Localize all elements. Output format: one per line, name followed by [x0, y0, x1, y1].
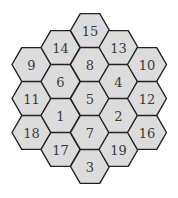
- hex-label: 5: [86, 92, 94, 107]
- hex-label: 16: [139, 126, 156, 141]
- hex-label: 14: [52, 41, 69, 56]
- hex-label: 10: [139, 58, 156, 73]
- hex-label: 4: [114, 75, 122, 90]
- hex-label: 6: [56, 75, 64, 90]
- hex-label: 2: [114, 109, 122, 124]
- hex-label: 9: [27, 58, 35, 73]
- hex-label: 1: [56, 109, 64, 124]
- hex-label: 17: [52, 143, 69, 158]
- hex-label: 15: [82, 24, 99, 39]
- hex-label: 7: [86, 126, 94, 141]
- hex-label: 3: [86, 160, 94, 175]
- hex-grid-diagram: 91118146117158573134219101216: [0, 0, 178, 198]
- hex-label: 19: [110, 143, 127, 158]
- hex-label: 13: [110, 41, 127, 56]
- hex-label: 11: [23, 92, 40, 107]
- hex-label: 18: [23, 126, 40, 141]
- hex-label: 12: [139, 92, 156, 107]
- hex-label: 8: [86, 58, 94, 73]
